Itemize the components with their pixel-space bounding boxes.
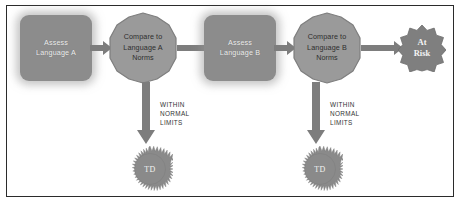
node-assess-language-a[interactable]: AssessLanguage A [20, 15, 92, 81]
compare-a-line2: Language A [123, 43, 162, 52]
arrow-compare-b-to-at-risk [361, 38, 403, 58]
node-at-risk[interactable]: AtRisk [398, 24, 446, 72]
arrow-compare-b-to-td [306, 82, 326, 144]
node-assess-language-a-label: AssessLanguage A [36, 38, 76, 59]
node-td-b[interactable]: TD [297, 146, 343, 192]
node-at-risk-label: AtRisk [414, 37, 431, 60]
diagram-stage: AssessLanguage A Compare toLanguage ANor… [0, 0, 460, 205]
node-td-a[interactable]: TD [127, 146, 173, 192]
arrow-compare-a-to-td [136, 82, 156, 144]
compare-a-line3: Norms [132, 53, 154, 62]
node-compare-language-b-label: Compare toLanguage BNorms [307, 32, 347, 64]
edge-label-within-normal-limits-a: WITHIN NORMAL LIMITS [160, 100, 189, 128]
node-assess-language-b[interactable]: AssessLanguage B [204, 15, 276, 81]
node-compare-language-a-norms[interactable]: Compare toLanguage ANorms [107, 12, 179, 84]
compare-b-line1: Compare to [308, 32, 347, 41]
assess-a-line1: Assess [44, 38, 68, 47]
node-td-b-label: TD [314, 165, 325, 174]
compare-b-line2: Language B [307, 43, 347, 52]
node-compare-language-b-norms[interactable]: Compare toLanguage BNorms [291, 12, 363, 84]
node-td-a-label: TD [144, 165, 155, 174]
compare-b-line3: Norms [316, 53, 338, 62]
at-risk-line1: At [418, 37, 427, 47]
assess-b-line1: Assess [228, 38, 252, 47]
assess-a-line2: Language A [36, 48, 76, 57]
assess-b-line2: Language B [220, 48, 260, 57]
flowchart-screenshot: AssessLanguage A Compare toLanguage ANor… [0, 0, 460, 205]
compare-a-line1: Compare to [124, 32, 163, 41]
edge-label-within-normal-limits-b: WITHIN NORMAL LIMITS [330, 100, 359, 128]
at-risk-line2: Risk [414, 48, 431, 58]
node-compare-language-a-label: Compare toLanguage ANorms [123, 32, 162, 64]
node-assess-language-b-label: AssessLanguage B [220, 38, 260, 59]
